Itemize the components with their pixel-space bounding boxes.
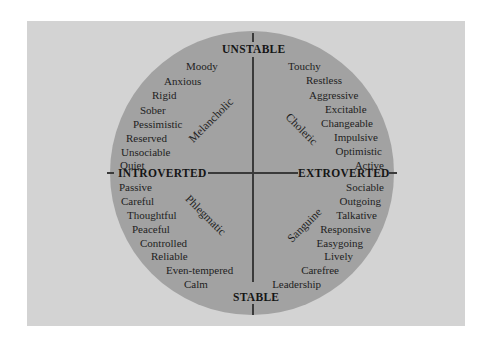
axis-label-unstable: UNSTABLE <box>222 43 286 55</box>
trait-controlled: Controlled <box>140 237 187 249</box>
trait-sober: Sober <box>140 104 166 116</box>
axis-label-stable: STABLE <box>233 291 279 303</box>
trait-passive: Passive <box>119 181 152 193</box>
trait-restless: Restless <box>306 74 342 86</box>
trait-touchy: Touchy <box>288 60 321 72</box>
horizontal-axis-line <box>208 172 298 174</box>
vertical-axis-bottom-tick <box>252 304 254 315</box>
trait-leadership: Leadership <box>272 278 321 290</box>
trait-changeable: Changeable <box>321 117 373 129</box>
horizontal-axis-left-tick <box>107 172 114 174</box>
trait-talkative: Talkative <box>336 209 377 221</box>
trait-aggressive: Aggressive <box>309 89 359 101</box>
trait-careful: Careful <box>121 195 154 207</box>
trait-anxious: Anxious <box>164 75 201 87</box>
trait-carefree: Carefree <box>301 264 339 276</box>
trait-rigid: Rigid <box>152 89 176 101</box>
horizontal-axis-right-tick <box>389 172 397 174</box>
trait-active: Active <box>355 159 384 171</box>
trait-optimistic: Optimistic <box>336 145 382 157</box>
trait-even-tempered: Even-tempered <box>166 264 233 276</box>
trait-easygoing: Easygoing <box>317 237 363 249</box>
trait-reliable: Reliable <box>151 250 188 262</box>
trait-peaceful: Peaceful <box>132 223 170 235</box>
trait-responsive: Responsive <box>320 223 371 235</box>
trait-excitable: Excitable <box>325 103 367 115</box>
trait-outgoing: Outgoing <box>339 195 381 207</box>
trait-moody: Moody <box>186 60 218 72</box>
vertical-axis-top-tick <box>252 33 254 42</box>
trait-calm: Calm <box>184 278 208 290</box>
trait-thoughtful: Thoughtful <box>127 209 177 221</box>
trait-pessimistic: Pessimistic <box>133 118 183 130</box>
trait-sociable: Sociable <box>346 181 384 193</box>
vertical-axis-line <box>252 57 254 282</box>
trait-quiet: Quiet <box>120 159 144 171</box>
trait-lively: Lively <box>324 250 353 262</box>
trait-unsociable: Unsociable <box>121 146 170 158</box>
trait-reserved: Reserved <box>126 132 167 144</box>
trait-impulsive: Impulsive <box>334 131 378 143</box>
